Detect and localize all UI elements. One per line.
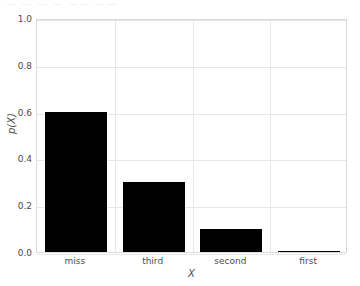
y-tick-label: 0.8: [2, 62, 32, 71]
y-axis-tick-labels: 0.00.20.40.60.81.0: [0, 19, 32, 253]
plot-area: [36, 19, 347, 253]
x-tick-label: third: [114, 256, 192, 267]
x-axis-tick-labels: missthirdsecondfirst: [36, 256, 347, 268]
y-tick-label: 1.0: [2, 15, 32, 24]
y-tick-label: 0.2: [2, 202, 32, 211]
bar[interactable]: [200, 229, 262, 252]
bar-series: [37, 20, 346, 252]
y-tick-label: 0.0: [2, 249, 32, 258]
y-axis-title: p(X): [6, 113, 17, 134]
x-axis-title: X: [36, 268, 347, 279]
bar-chart-figure: 0.00.20.40.60.81.0 missthirdsecondfirst …: [0, 0, 360, 286]
x-tick-label: first: [269, 256, 347, 267]
bar[interactable]: [45, 112, 107, 252]
x-tick-label: second: [192, 256, 270, 267]
bar[interactable]: [278, 251, 340, 253]
x-tick-label: miss: [36, 256, 114, 267]
gridline-horizontal: [37, 254, 346, 255]
y-tick-label: 0.4: [2, 155, 32, 164]
bar[interactable]: [123, 182, 185, 252]
